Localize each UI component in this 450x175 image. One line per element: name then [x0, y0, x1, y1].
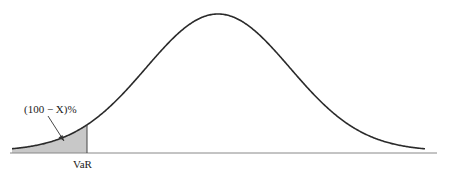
- var-label: VaR: [73, 158, 93, 170]
- tail-area: [12, 125, 87, 153]
- tail-probability-label: (100 − X)%: [24, 103, 77, 116]
- var-diagram: (100 − X)% VaR: [0, 0, 450, 175]
- normal-curve: [12, 14, 425, 149]
